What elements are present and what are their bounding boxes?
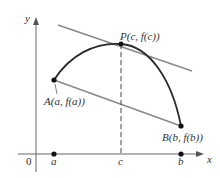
point-p-label: P(c, f(c)) (119, 30, 160, 43)
point-b (178, 123, 183, 128)
tick-c-label: c (118, 155, 123, 167)
point-b-label: B(b, f(b)) (162, 131, 203, 144)
tick-b-label: b (178, 155, 184, 167)
function-curve (54, 44, 181, 126)
mvt-diagram: y x 0 a c b A(a, f(a)) P(c, f(c)) B(b, f… (0, 0, 220, 178)
point-p (119, 42, 124, 47)
x-axis-label: x (206, 153, 212, 165)
origin-label: 0 (26, 155, 32, 167)
y-axis-arrow-icon (33, 17, 39, 25)
tick-a-label: a (51, 155, 57, 167)
diagram-svg: y x 0 a c b A(a, f(a)) P(c, f(c)) B(b, f… (0, 0, 220, 178)
point-a (51, 77, 56, 82)
y-axis-label: y (24, 12, 30, 24)
point-a-label: A(a, f(a)) (43, 95, 85, 108)
x-axis-arrow-icon (196, 151, 204, 157)
label-a-leader (55, 84, 57, 94)
